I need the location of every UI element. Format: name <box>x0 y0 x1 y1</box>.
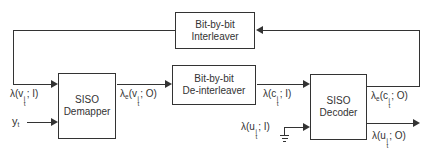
ground-stem <box>284 127 285 135</box>
arrowhead-into-deinterleaver <box>165 80 172 88</box>
signal-label-demapper-input: λ(vit; I) <box>10 88 38 106</box>
variable-letter: c <box>271 88 276 99</box>
block-label-line1: SISO <box>75 94 99 106</box>
arrowhead-decoder-output <box>413 119 420 127</box>
signal-label-demapper-output: λe(vit; O) <box>120 88 157 106</box>
wire-received-input <box>27 122 51 123</box>
block-label-line1: Bit-by-bit <box>194 73 233 85</box>
arrowhead-into-interleaver <box>256 26 263 34</box>
sup-sub-stack: it <box>137 96 139 106</box>
block-label-line1: SISO <box>327 95 351 107</box>
wire-demapper-output <box>117 84 165 85</box>
wire-right-vertical <box>419 30 420 87</box>
variable-letter: v <box>18 88 23 99</box>
block-deinterleaver: Bit-by-bit De-interleaver <box>172 65 256 105</box>
block-interleaver: Bit-by-bit Interleaver <box>175 12 255 49</box>
wire-demapper-input <box>13 84 51 85</box>
wire-decoder-feedback-out <box>367 86 420 87</box>
paren-close: ; I) <box>258 121 270 132</box>
sup-sub-stack: it <box>24 96 26 106</box>
ground-bar-3 <box>283 141 286 142</box>
arrowhead-into-decoder-top <box>303 80 310 88</box>
block-diagram-canvas: Bit-by-bit Interleaver Bit-by-bit De-int… <box>0 0 432 155</box>
wire-decoder-output <box>367 123 413 124</box>
sup-sub-stack: it <box>388 98 390 108</box>
block-siso-demapper: SISO Demapper <box>58 73 116 139</box>
arrowhead-into-demapper-bottom <box>51 118 58 126</box>
signal-label-received-symbols: yt <box>12 116 19 130</box>
paren-close: ; O) <box>140 88 157 99</box>
variable-letter: u <box>249 121 255 132</box>
arrowhead-into-decoder-bottom <box>303 123 310 131</box>
signal-label-decoder-info-output: λ(uit; O) <box>372 130 406 148</box>
arrowhead-into-demapper-top <box>51 80 58 88</box>
signal-label-decoder-info-input: λ(uit; I) <box>241 121 270 139</box>
ground-bar-2 <box>282 138 288 139</box>
block-label-line2: Demapper <box>64 106 111 118</box>
signal-label-decoder-code-output: λe(cit; O) <box>371 90 408 108</box>
paren-close: ; I) <box>280 88 292 99</box>
sup-sub-stack: it <box>277 96 279 106</box>
wire-interleaver-right <box>263 30 420 31</box>
wire-apriori-input <box>284 127 303 128</box>
paren-close: ; O) <box>391 90 408 101</box>
block-label-line2: Decoder <box>320 107 358 119</box>
wire-interleaver-left <box>13 30 176 31</box>
block-siso-decoder: SISO Decoder <box>310 74 367 140</box>
variable-letter: v <box>132 88 137 99</box>
wire-left-vertical <box>13 30 14 85</box>
variable-subscript: t <box>18 121 20 128</box>
sup-sub-stack: it <box>386 138 388 148</box>
ground-bar-1 <box>280 135 289 136</box>
variable-letter: c <box>383 90 388 101</box>
wire-deinterleaver-output <box>257 84 303 85</box>
block-label-line1: Bit-by-bit <box>195 19 234 31</box>
block-label-line2: Interleaver <box>191 31 238 43</box>
paren-close: ; O) <box>389 130 406 141</box>
paren-close: ; I) <box>27 88 39 99</box>
sup-sub-stack: it <box>255 129 257 139</box>
block-label-line2: De-interleaver <box>183 85 246 97</box>
signal-label-decoder-code-input: λ(cit; I) <box>263 88 291 106</box>
variable-letter: u <box>380 130 386 141</box>
